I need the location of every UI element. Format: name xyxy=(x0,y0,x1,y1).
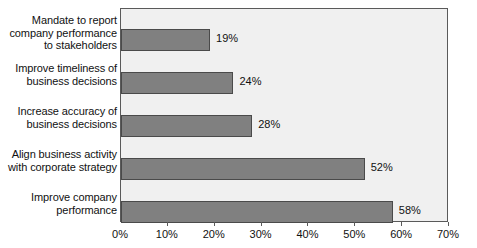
bar-2 xyxy=(121,115,252,137)
x-tick-mark-60 xyxy=(401,222,402,226)
bar-0 xyxy=(121,29,210,51)
category-label-4: Improve company performance xyxy=(31,191,117,216)
bar-4 xyxy=(121,201,393,223)
horizontal-bar-chart: Mandate to report company performance to… xyxy=(0,0,477,248)
bar-1 xyxy=(121,72,233,94)
x-tick-label-40: 40% xyxy=(285,228,329,240)
value-label-4: 58% xyxy=(399,205,421,216)
x-tick-label-70: 70% xyxy=(426,228,470,240)
x-tick-label-20: 20% xyxy=(192,228,236,240)
value-label-2: 28% xyxy=(258,119,280,130)
value-label-3: 52% xyxy=(371,162,393,173)
x-tick-mark-20 xyxy=(214,222,215,226)
x-tick-label-60: 60% xyxy=(379,228,423,240)
category-label-3: Align business activity with corporate s… xyxy=(8,148,117,173)
category-label-0: Mandate to report company performance to… xyxy=(9,14,117,52)
x-tick-mark-70 xyxy=(448,222,449,226)
clipped-caption-text xyxy=(128,241,468,248)
bar-3 xyxy=(121,158,365,180)
category-label-2: Increase accuracy of business decisions xyxy=(18,105,118,130)
x-tick-label-0: 0% xyxy=(98,228,142,240)
x-tick-label-30: 30% xyxy=(239,228,283,240)
x-tick-mark-30 xyxy=(261,222,262,226)
value-label-1: 24% xyxy=(239,76,261,87)
value-label-0: 19% xyxy=(216,33,238,44)
category-label-1: Improve timeliness of business decisions xyxy=(15,62,117,87)
x-tick-mark-50 xyxy=(354,222,355,226)
plot-area xyxy=(120,8,448,222)
x-tick-label-10: 10% xyxy=(145,228,189,240)
x-tick-mark-40 xyxy=(307,222,308,226)
x-tick-label-50: 50% xyxy=(332,228,376,240)
x-tick-mark-10 xyxy=(167,222,168,226)
